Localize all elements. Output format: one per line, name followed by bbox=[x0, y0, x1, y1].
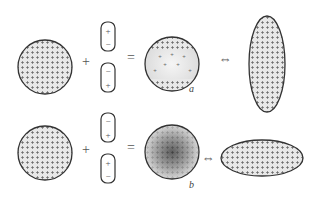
neutral-sphere bbox=[18, 40, 72, 94]
svg-text:−: − bbox=[105, 171, 110, 181]
equals-operator: = bbox=[127, 140, 135, 155]
dipole-capsule: + − bbox=[101, 22, 115, 51]
svg-text:+: + bbox=[105, 26, 110, 36]
dipole-capsule: − + bbox=[101, 113, 115, 142]
label-b: b bbox=[189, 179, 194, 190]
svg-text:+: + bbox=[105, 130, 110, 140]
svg-text:+: + bbox=[158, 53, 162, 59]
vertical-ellipse bbox=[249, 16, 285, 112]
plus-operator: + bbox=[82, 54, 90, 69]
polarized-sphere-b bbox=[145, 125, 199, 179]
equivalence-arrow: ⇔ bbox=[219, 51, 232, 66]
dipole-capsule: − + bbox=[101, 63, 115, 92]
neutral-sphere bbox=[18, 126, 72, 180]
plus-operator: + bbox=[82, 142, 90, 157]
row-top: + + − − + = +++ ++ ++ a bbox=[18, 16, 285, 112]
svg-text:+: + bbox=[176, 61, 180, 67]
svg-text:+: + bbox=[188, 67, 192, 73]
svg-text:+: + bbox=[105, 158, 110, 168]
equivalence-arrow: ⇔ bbox=[202, 150, 215, 165]
svg-text:+: + bbox=[170, 51, 174, 57]
horizontal-ellipse bbox=[221, 140, 303, 176]
dipole-capsule: + − bbox=[101, 154, 115, 183]
row-bottom: + − + + − = b ⇔ bbox=[18, 113, 303, 190]
svg-text:+: + bbox=[182, 53, 186, 59]
diagram: + + − − + = +++ ++ ++ a bbox=[0, 0, 320, 203]
svg-text:+: + bbox=[153, 67, 157, 73]
equals-operator: = bbox=[127, 50, 135, 65]
svg-text:−: − bbox=[105, 39, 110, 49]
svg-text:+: + bbox=[163, 61, 167, 67]
label-a: a bbox=[189, 83, 194, 94]
svg-text:−: − bbox=[105, 66, 110, 76]
svg-text:−: − bbox=[105, 116, 110, 126]
svg-text:+: + bbox=[105, 80, 110, 90]
